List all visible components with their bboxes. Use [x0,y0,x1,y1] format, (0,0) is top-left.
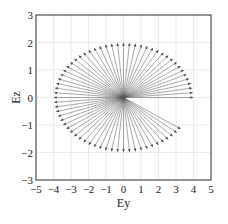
x-axis-label: Ey [117,196,130,210]
y-tick-label: −2 [21,147,33,159]
y-tick-label: 3 [28,9,34,21]
arrow-field [54,43,194,153]
x-tick-label: −3 [65,183,77,195]
y-tick-label: 1 [28,64,34,76]
x-tick-label: 4 [191,183,197,195]
y-axis-label: Ez [9,91,23,104]
x-tick-label: 3 [173,183,179,195]
x-tick-label: −4 [48,183,60,195]
x-tick-label: 5 [208,183,214,195]
quiver-chart: −5−4−3−2−1012345 −3−2−10123 Ey Ez [0,0,228,224]
x-tick-label: 2 [156,183,162,195]
y-tick-label: 0 [28,92,34,104]
x-tick-label: −1 [100,183,112,195]
x-tick-label: −2 [83,183,95,195]
x-tick-labels: −5−4−3−2−1012345 [30,183,214,195]
x-tick-label: 0 [121,183,127,195]
y-tick-labels: −3−2−10123 [21,9,33,186]
x-tick-label: 1 [138,183,144,195]
y-tick-label: −3 [21,174,33,186]
y-tick-label: −1 [21,119,33,131]
y-tick-label: 2 [28,37,34,49]
